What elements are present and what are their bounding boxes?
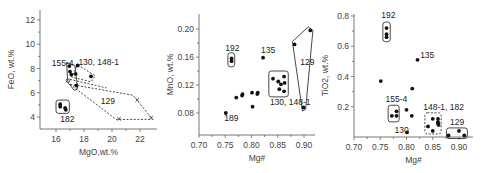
data-point — [58, 105, 62, 109]
x-axis-label: Mg# — [405, 155, 422, 165]
x-tick-label: 20 — [107, 134, 117, 144]
annotation-label: 135 — [420, 50, 434, 60]
annotation-label: 182 — [60, 114, 74, 124]
data-point — [416, 58, 420, 62]
x-tick-label: 0.85 — [269, 140, 286, 150]
data-point — [431, 117, 435, 121]
x-tick-label: 0.80 — [243, 140, 260, 150]
x-axis-label: Mg# — [249, 153, 266, 163]
data-point — [395, 114, 399, 118]
x-tick-label: 0.70 — [346, 142, 363, 152]
data-point — [250, 91, 254, 95]
data-point — [385, 26, 389, 30]
y-tick-label: 0.08 — [177, 108, 194, 118]
x-tick-label: 0.70 — [191, 140, 208, 150]
x-tick-label: 22 — [135, 134, 145, 144]
data-point — [234, 96, 238, 100]
data-point — [89, 74, 93, 78]
data-point — [405, 108, 409, 112]
data-point — [395, 109, 399, 113]
data-point — [293, 43, 297, 47]
data-point — [410, 114, 414, 118]
annotation-label: 130, 148-1 — [78, 57, 119, 67]
data-point — [277, 87, 281, 91]
annotation-label: 189 — [224, 113, 238, 123]
group-outline-182 — [56, 100, 69, 113]
chart-feo-vs-mgo: 468101216182022MgO,wt.%FeO, wt.%155-4130… — [6, 10, 157, 157]
data-point — [276, 80, 280, 84]
annotation-label: 129 — [450, 117, 464, 127]
annotation-label: 155-4 — [52, 58, 74, 68]
data-point — [457, 129, 461, 133]
annotation-label: 192 — [225, 43, 239, 53]
data-point — [426, 125, 430, 129]
x-tick-label: 18 — [79, 134, 89, 144]
data-point — [74, 84, 78, 88]
data-point — [437, 123, 441, 127]
figure: 468101216182022MgO,wt.%FeO, wt.%155-4130… — [0, 0, 483, 173]
data-point — [431, 129, 435, 133]
annotation-label: 130 — [394, 125, 408, 135]
annotation-label: 135 — [261, 45, 275, 55]
chart-tio2-vs-mgnumber: 0.20.40.60.80.700.750.800.850.90Mg#TiO2,… — [320, 10, 473, 165]
data-point — [447, 134, 451, 138]
y-tick-label: 0.2 — [337, 102, 349, 112]
y-tick-label: 0.12 — [177, 80, 194, 90]
data-point — [74, 72, 78, 76]
y-tick-label: 6 — [30, 88, 35, 98]
data-point — [251, 105, 255, 109]
data-point — [410, 87, 414, 91]
data-point — [282, 89, 286, 93]
y-tick-label: 12 — [26, 15, 36, 25]
y-tick-label: 0.4 — [337, 72, 349, 82]
x-tick-label: 0.90 — [296, 140, 313, 150]
data-point — [283, 81, 287, 85]
data-point — [261, 56, 265, 60]
y-axis-label: FeO, wt.% — [6, 49, 16, 89]
annotation-label: 192 — [381, 10, 395, 20]
y-tick-label: 10 — [26, 39, 36, 49]
annotation-label: 155-4 — [386, 94, 408, 104]
x-tick-label: 0.90 — [451, 142, 468, 152]
data-point — [462, 134, 466, 138]
data-point — [279, 82, 283, 86]
data-point — [64, 108, 68, 112]
y-tick-label: 0.8 — [337, 11, 349, 21]
scatter-figure: 468101216182022MgO,wt.%FeO, wt.%155-4130… — [0, 0, 483, 173]
annotation-label: 129 — [101, 96, 115, 106]
data-point — [385, 35, 389, 39]
group-outline-155-4 — [388, 105, 399, 122]
data-point — [230, 57, 234, 61]
y-tick-label: 8 — [30, 64, 35, 74]
chart-mno-vs-mgnumber: 0.080.120.160.200.700.750.800.850.90Mg#M… — [165, 14, 315, 163]
x-axis-label: MgO,wt.% — [79, 147, 119, 157]
x-tick-label: 0.75 — [217, 140, 234, 150]
y-tick-label: 0.20 — [177, 24, 194, 34]
annotation-label: 148-1, 182 — [423, 102, 464, 112]
data-point — [70, 73, 74, 77]
y-axis-label: TiO2, wt.% — [320, 54, 330, 96]
y-axis-label: MnO, wt.% — [165, 53, 175, 95]
data-point — [271, 77, 275, 81]
x-tick-label: 16 — [51, 134, 61, 144]
data-point — [379, 79, 383, 83]
data-point — [282, 75, 286, 79]
x-tick-label: 0.85 — [424, 142, 441, 152]
annotation-label: 129 — [300, 57, 314, 67]
data-point — [256, 91, 260, 95]
y-tick-label: 4 — [30, 112, 35, 122]
y-tick-label: 0.16 — [177, 52, 194, 62]
y-tick-label: 0.6 — [337, 41, 349, 51]
data-point — [241, 92, 245, 96]
annotation-label: 130, 148-1 — [270, 97, 311, 107]
x-tick-label: 0.75 — [372, 142, 389, 152]
data-point — [308, 29, 312, 33]
data-point — [390, 114, 394, 118]
x-tick-label: 0.80 — [398, 142, 415, 152]
